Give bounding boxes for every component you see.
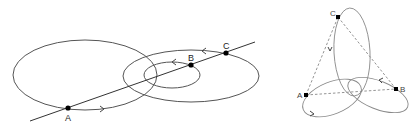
label-c: C bbox=[330, 9, 336, 18]
label-c: C bbox=[223, 41, 230, 51]
arrow-right-icon bbox=[310, 111, 314, 116]
point-b bbox=[394, 87, 398, 91]
point-a bbox=[304, 93, 308, 97]
orbit-ellipse-b bbox=[343, 70, 413, 120]
arrow-down-icon bbox=[328, 47, 332, 51]
label-b: B bbox=[400, 85, 405, 94]
label-b: B bbox=[188, 53, 194, 63]
label-a: A bbox=[65, 113, 71, 123]
orbit-ellipse-c bbox=[332, 7, 373, 97]
point-c bbox=[223, 50, 228, 55]
orbit-diagrams: A B C C A B bbox=[0, 0, 420, 129]
dashed-edge-ab bbox=[306, 89, 396, 95]
arrow-left-icon bbox=[379, 78, 383, 83]
right-diagram: C A B bbox=[297, 7, 413, 124]
point-b bbox=[188, 62, 193, 67]
point-a bbox=[65, 105, 70, 110]
label-a: A bbox=[297, 91, 303, 100]
dashed-edge-ac bbox=[306, 17, 338, 95]
left-diagram: A B C bbox=[13, 40, 259, 123]
point-c bbox=[336, 15, 340, 19]
dashed-edge-cb bbox=[338, 17, 396, 89]
orbit-large-ellipse bbox=[13, 40, 157, 110]
